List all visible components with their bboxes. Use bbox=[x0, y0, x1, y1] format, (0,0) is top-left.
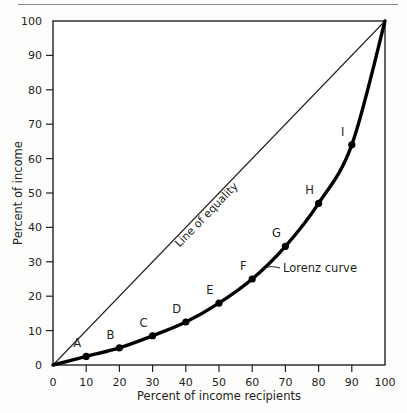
y-tick-label-70: 70 bbox=[28, 118, 42, 131]
y-axis-title: Percent of income bbox=[11, 141, 25, 245]
data-point-E bbox=[215, 299, 222, 306]
y-tick-label-20: 20 bbox=[28, 290, 42, 303]
x-axis-tick-labels: 0102030405060708090100 bbox=[50, 376, 396, 389]
y-tick-label-90: 90 bbox=[28, 49, 42, 62]
data-point-G bbox=[282, 243, 289, 250]
y-tick-label-100: 100 bbox=[21, 15, 42, 28]
point-label-B: B bbox=[106, 328, 114, 342]
y-tick-label-50: 50 bbox=[28, 187, 42, 200]
point-label-C: C bbox=[140, 316, 148, 330]
data-point-H bbox=[315, 200, 322, 207]
lorenz-curve-chart: 0102030405060708090100 01020304050607080… bbox=[0, 0, 407, 413]
y-tick-label-40: 40 bbox=[28, 221, 42, 234]
x-tick-label-20: 20 bbox=[112, 376, 126, 389]
y-tick-label-30: 30 bbox=[28, 256, 42, 269]
y-tick-label-60: 60 bbox=[28, 153, 42, 166]
data-point-C bbox=[149, 332, 156, 339]
lorenz-curve-figure: 0102030405060708090100 01020304050607080… bbox=[0, 0, 407, 413]
lorenz-curve-label: Lorenz curve bbox=[283, 261, 357, 275]
x-tick-label-30: 30 bbox=[146, 376, 160, 389]
point-label-G: G bbox=[272, 226, 281, 240]
data-point-D bbox=[182, 318, 189, 325]
x-axis-title: Percent of income recipients bbox=[137, 389, 301, 403]
x-tick-label-100: 100 bbox=[375, 376, 396, 389]
x-tick-label-70: 70 bbox=[278, 376, 292, 389]
point-label-D: D bbox=[172, 302, 181, 316]
data-point-F bbox=[249, 275, 256, 282]
point-label-H: H bbox=[305, 183, 314, 197]
x-tick-label-60: 60 bbox=[245, 376, 259, 389]
data-point-B bbox=[116, 344, 123, 351]
y-tick-label-0: 0 bbox=[35, 359, 42, 372]
x-tick-label-80: 80 bbox=[312, 376, 326, 389]
x-axis-ticks bbox=[86, 365, 352, 372]
x-tick-label-0: 0 bbox=[50, 376, 57, 389]
x-tick-label-50: 50 bbox=[212, 376, 226, 389]
point-label-I: I bbox=[341, 125, 344, 139]
y-axis-ticks bbox=[46, 55, 53, 330]
x-tick-label-10: 10 bbox=[79, 376, 93, 389]
y-tick-label-80: 80 bbox=[28, 84, 42, 97]
x-tick-label-40: 40 bbox=[179, 376, 193, 389]
y-tick-label-10: 10 bbox=[28, 325, 42, 338]
point-label-F: F bbox=[240, 259, 247, 273]
x-tick-label-90: 90 bbox=[345, 376, 359, 389]
point-label-E: E bbox=[206, 283, 213, 297]
point-label-A: A bbox=[73, 336, 81, 350]
data-point-A bbox=[83, 353, 90, 360]
data-point-I bbox=[348, 141, 355, 148]
